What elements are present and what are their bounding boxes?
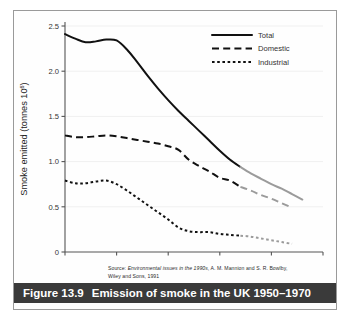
y-axis-title-text: Smoke emitted (tonnes 106)	[19, 82, 29, 195]
legend-label-industrial: Industrial	[258, 58, 289, 67]
source-line-two: Wiley and Sons, 1991	[108, 273, 159, 279]
series-line-industrial-projected	[240, 236, 292, 244]
x-tick-label-1: 1955	[108, 258, 125, 259]
x-tick-label-3: 1965	[211, 258, 228, 259]
y-axis-title-tail: )	[19, 82, 29, 85]
x-tick-label-4: 1970	[263, 258, 280, 259]
source-prefix: Source:	[108, 265, 128, 271]
chart-plot-area: 00.51.01.52.02.5195019551960196519701975…	[14, 11, 336, 259]
y-tick-label-2: 1.0	[48, 157, 59, 166]
legend-label-domestic: Domestic	[258, 44, 290, 53]
figure-number: Figure 13.9	[23, 287, 84, 299]
y-tick-label-5: 2.5	[48, 22, 59, 31]
x-tick-label-5: 1975	[315, 258, 332, 259]
y-tick-label-0: 0	[55, 248, 59, 257]
y-tick-label-3: 1.5	[48, 112, 59, 121]
x-tick-label-0: 1950	[57, 258, 74, 259]
y-tick-label-1: 0.5	[48, 203, 59, 212]
legend-label-total: Total	[258, 31, 274, 40]
source-title: Environmental issues in the 1990s	[128, 265, 208, 271]
y-axis-title: Smoke emitted (tonnes 106)	[19, 82, 29, 195]
figure-caption-bar: Figure 13.9 Emission of smoke in the UK …	[14, 283, 336, 303]
series-line-total-projected	[240, 167, 302, 200]
series-line-industrial-observed	[65, 180, 240, 235]
x-tick-label-2: 1960	[160, 258, 177, 259]
source-citation: Source: Environmental issues in the 1990…	[108, 265, 332, 281]
series-line-total-observed	[65, 34, 240, 167]
figure-caption-text: Emission of smoke in the UK 1950–1970	[92, 287, 311, 299]
figure-container: 00.51.01.52.02.5195019551960196519701975…	[13, 10, 337, 310]
y-tick-label-4: 2.0	[48, 67, 59, 76]
smoke-emission-line-chart: 00.51.01.52.02.5195019551960196519701975…	[14, 11, 336, 259]
source-rest: , A. M. Mannion and S. R. Bowlby,	[208, 265, 288, 271]
